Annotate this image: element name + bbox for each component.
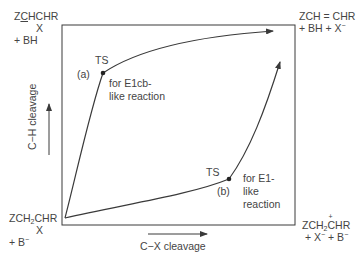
bottom-left-formula: ZCH2CHR [9,212,57,224]
ts-b-point [227,177,232,182]
path-b-description: for E1- like reaction [243,172,280,211]
corner-top-right: ZCH = CHR + BH + X− [299,10,355,34]
bottom-right-products: + X− + B− [302,231,350,243]
y-axis-label: C−H cleavage [26,84,38,150]
corner-bottom-left: ZCH2CHR X + B− [9,212,57,248]
path-b-tag: (b) [217,185,230,197]
ts-a-point [101,71,106,76]
path-a-description: for E1cb- like reaction [109,77,165,103]
bottom-left-x: X [9,224,57,236]
ts-b-label: TS [206,166,219,178]
top-right-products: + BH + X− [299,22,355,34]
top-left-reagent: + BH [14,34,58,46]
x-axis-label: C−X cleavage [140,240,206,252]
top-left-formula: ZCHCHR [14,10,58,22]
top-right-formula: ZCH = CHR [299,10,355,22]
corner-top-left: ZCHCHR X + BH [14,10,58,46]
path-a-tag: (a) [77,68,90,80]
corner-bottom-right: ZCH2CHR + X− + B− [302,219,350,243]
top-left-x: X [14,22,58,34]
bottom-right-formula: ZCH2CHR [302,219,350,231]
ts-a-label: TS [95,54,108,66]
bottom-left-reagent: + B− [9,236,57,248]
